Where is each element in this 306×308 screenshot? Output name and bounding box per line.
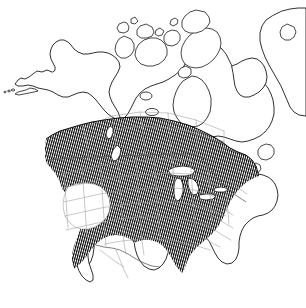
iceland-outline (280, 24, 296, 40)
devon-island (164, 30, 180, 46)
arctic-islet-b (170, 18, 178, 26)
prince-patrick-island (117, 22, 129, 33)
mexico-state-borders (100, 250, 128, 278)
melville-island (137, 24, 154, 38)
aleutian-islands (4, 89, 15, 93)
range-map-figure (0, 0, 306, 308)
southampton-island (178, 66, 191, 78)
arctic-islet-c (131, 17, 138, 24)
alaska-peninsula (15, 88, 38, 95)
victoria-island (135, 38, 167, 66)
great-bear-lake (140, 92, 152, 100)
arctic-islet-a (155, 28, 164, 36)
map-canvas (0, 0, 306, 308)
lake-erie-edge (199, 194, 216, 200)
alaska-outline (15, 40, 120, 121)
banks-island (115, 36, 134, 58)
newfoundland-outline (258, 144, 274, 160)
